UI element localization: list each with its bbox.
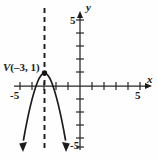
y-tick-label-minus5: -5 — [70, 140, 79, 151]
parabola-left-arrowhead — [19, 142, 27, 152]
x-axis-label: x — [147, 74, 153, 85]
vertex-label-coords: (–3, 1) — [10, 61, 39, 73]
y-axis-label: y — [86, 2, 91, 13]
vertex-annotation-label: V(–3, 1) — [3, 62, 40, 73]
coordinate-plane-svg — [0, 0, 158, 159]
graph-figure: y x 5 -5 -5 5 V(–3, 1) — [0, 0, 158, 159]
vertex-point-marker — [42, 70, 47, 75]
y-axis-group — [76, 11, 84, 150]
x-tick-label-5: 5 — [135, 90, 141, 101]
parabola-right-arrowhead — [62, 142, 70, 152]
x-tick-label-minus5: -5 — [10, 90, 19, 101]
y-axis-arrowhead — [77, 11, 83, 18]
y-tick-label-5: 5 — [70, 15, 76, 26]
